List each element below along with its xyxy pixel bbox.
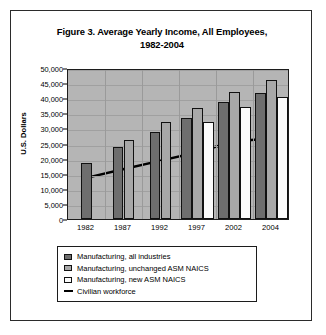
x-axis-tick-label: 2004 [262, 223, 279, 232]
black-line-icon [64, 290, 73, 292]
medium-gray-square-icon [64, 265, 72, 271]
y-axis-tick-mark [63, 159, 67, 160]
y-axis-tick-label: 5,000 [45, 200, 64, 209]
legend-item-label: Manufacturing, new ASM NAICS [77, 275, 185, 284]
y-axis-tick-label: 15,000 [40, 170, 63, 179]
x-axis-tick-label: 1982 [77, 223, 94, 232]
legend-swatch-wrap [64, 290, 77, 292]
plot-area [67, 69, 289, 220]
x-axis-tick-label: 1992 [151, 223, 168, 232]
legend-item: Manufacturing, all industries [64, 251, 251, 263]
y-axis-tick-label: 40,000 [40, 95, 63, 104]
category-separator [142, 70, 143, 219]
x-axis-tick-label: 1987 [114, 223, 131, 232]
bar [229, 92, 240, 219]
white-square-icon [64, 277, 72, 283]
dark-gray-square-icon [64, 254, 72, 260]
legend-swatch-wrap [64, 254, 77, 260]
legend-item: Manufacturing, new ASM NAICS [64, 274, 251, 286]
y-axis-tick-mark [63, 129, 67, 130]
legend-swatch-wrap [64, 265, 77, 271]
x-axis-tick-label: 1997 [188, 223, 205, 232]
y-axis-tick-mark [63, 144, 67, 145]
x-axis-tick-labels: 198219871992199720022004 [67, 223, 289, 235]
category-separator [179, 70, 180, 219]
bar [277, 97, 288, 219]
bar [203, 122, 214, 219]
bar [81, 163, 92, 219]
legend-item: Manufacturing, unchanged ASM NAICS [64, 263, 251, 275]
figure-frame: Figure 3. Average Yearly Income, All Emp… [10, 10, 312, 321]
legend-item-label: Manufacturing, all industries [77, 252, 170, 261]
bar [192, 108, 203, 219]
y-axis-tick-mark [63, 204, 67, 205]
y-axis-tick-label: 50,000 [40, 65, 63, 74]
y-axis-tick-label: 10,000 [40, 185, 63, 194]
y-axis-tick-mark [63, 99, 67, 100]
category-separator [216, 70, 217, 219]
y-axis-tick-mark [63, 84, 67, 85]
y-axis-tick-label: 30,000 [40, 125, 63, 134]
gridline [68, 70, 288, 71]
bar [181, 118, 192, 219]
bar [266, 80, 277, 219]
legend-item: Civilian workforce [64, 286, 251, 298]
y-axis-tick-mark [63, 114, 67, 115]
y-axis-tick-labels: 05,00010,00015,00020,00025,00030,00035,0… [23, 69, 65, 220]
y-axis-tick-label: 20,000 [40, 155, 63, 164]
chart-legend: Manufacturing, all industriesManufacturi… [57, 246, 257, 302]
y-axis-tick-label: 25,000 [40, 140, 63, 149]
bar [113, 147, 124, 219]
y-axis-tick-mark [63, 189, 67, 190]
y-axis-tick-label: 45,000 [40, 80, 63, 89]
bar [240, 107, 251, 219]
category-separator [253, 70, 254, 219]
y-axis-tick-label: 35,000 [40, 110, 63, 119]
y-axis-tick-mark [63, 69, 67, 70]
gridline [68, 85, 288, 86]
legend-item-label: Civilian workforce [77, 287, 136, 296]
bar [124, 140, 135, 219]
category-separator [105, 70, 106, 219]
y-axis-tick-mark [63, 174, 67, 175]
bar [150, 132, 161, 219]
x-axis-tick-label: 2002 [225, 223, 242, 232]
bar [255, 93, 266, 219]
bar [161, 122, 172, 219]
legend-item-label: Manufacturing, unchanged ASM NAICS [77, 264, 209, 273]
bar [218, 102, 229, 219]
y-axis-tick-mark [63, 220, 67, 221]
legend-swatch-wrap [64, 277, 77, 283]
